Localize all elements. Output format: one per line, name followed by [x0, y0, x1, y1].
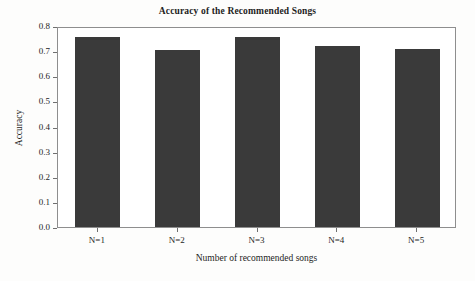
x-tick-label: N=3 [248, 235, 264, 245]
x-tick-label: N=1 [89, 235, 105, 245]
x-tick-mark [97, 228, 98, 232]
y-axis-ticks: 0.00.10.20.30.40.50.60.70.8 [0, 27, 57, 228]
x-tick-label: N=4 [328, 235, 344, 245]
y-tick-label: 0.5 [39, 96, 50, 106]
y-tick-label: 0.7 [39, 46, 50, 56]
y-tick-label: 0.8 [39, 21, 50, 31]
bar-chart-figure: Accuracy of the Recommended Songs Accura… [0, 0, 475, 281]
chart-title: Accuracy of the Recommended Songs [0, 6, 475, 16]
x-axis-title: Number of recommended songs [57, 253, 456, 263]
y-tick-label: 0.2 [39, 172, 50, 182]
x-tick-mark [177, 228, 178, 232]
y-tick-label: 0.3 [39, 147, 50, 157]
bar [155, 50, 200, 227]
y-tick-label: 0.4 [39, 122, 50, 132]
y-tick-label: 0.6 [39, 71, 50, 81]
bar [395, 49, 440, 227]
x-tick-label: N=2 [169, 235, 185, 245]
bars-container [58, 28, 455, 227]
plot-area [57, 27, 456, 228]
y-tick-label: 0.0 [39, 222, 50, 232]
bar [75, 37, 120, 227]
x-tick-label: N=5 [408, 235, 424, 245]
y-tick-label: 0.1 [39, 197, 50, 207]
x-tick-mark [336, 228, 337, 232]
x-tick-mark [257, 228, 258, 232]
bar [315, 46, 360, 227]
x-tick-mark [416, 228, 417, 232]
bar [235, 37, 280, 227]
